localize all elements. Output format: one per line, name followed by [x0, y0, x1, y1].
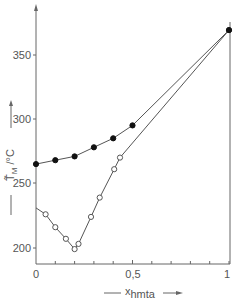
open-data-point [76, 241, 81, 246]
chart: 350 300 250 200 0 0,5 1 T̃M /°C xhmta [0, 0, 236, 303]
series-filled-circles [33, 28, 231, 167]
x-label-arrow-icon [176, 291, 183, 295]
x-axis-label: xhmta [125, 285, 156, 300]
y-label-arrow-icon [9, 100, 13, 106]
open-data-point [43, 212, 48, 217]
open-data-point [97, 195, 102, 200]
filled-data-point [111, 136, 116, 141]
y-tick-300: 300 [13, 113, 31, 125]
open-data-point [117, 155, 122, 160]
y-tick-350: 350 [13, 49, 31, 61]
y-axis-arrow-icon [34, 4, 38, 11]
filled-data-point [130, 123, 135, 128]
open-data-point [72, 247, 77, 252]
x-tick-0: 0 [33, 268, 39, 280]
open-data-point [53, 225, 58, 230]
filled-data-point [33, 162, 38, 167]
open-data-point [112, 167, 117, 172]
filled-data-point [91, 145, 96, 150]
axes [33, 4, 230, 264]
open-data-point [63, 236, 68, 241]
series-open-circles [36, 28, 232, 252]
x-tick-05: 0,5 [125, 268, 140, 280]
y-tick-200: 200 [13, 242, 31, 254]
filled-data-point [72, 154, 77, 159]
filled-data-point [53, 158, 58, 163]
open-data-point [88, 214, 93, 219]
x-tick-1: 1 [224, 268, 230, 280]
filled-data-point [226, 28, 231, 33]
